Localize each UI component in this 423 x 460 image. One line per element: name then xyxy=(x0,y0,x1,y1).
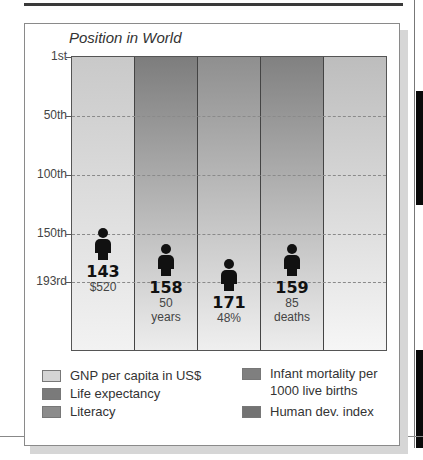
person-icon xyxy=(158,244,174,276)
page-edge-bar-top xyxy=(416,91,423,205)
gridline-100th xyxy=(72,175,386,176)
legend-label: Human dev. index xyxy=(270,404,374,420)
legend-label: GNP per capita in US$ xyxy=(70,368,201,384)
tick-label-50th: 50th xyxy=(44,108,67,122)
legend-swatch xyxy=(42,406,61,418)
rank-value: 143 xyxy=(72,264,134,280)
legend-swatch xyxy=(242,368,261,380)
legend-label: Infant mortality per 1000 live births xyxy=(270,366,378,399)
marker-life-expectancy: 158 50 years xyxy=(135,244,197,324)
value-unit: deaths xyxy=(261,310,323,324)
value-label: 48% xyxy=(198,311,260,325)
column-gnp xyxy=(72,57,135,350)
person-icon xyxy=(284,244,300,276)
legend-label-line2: 1000 live births xyxy=(270,383,378,399)
person-icon xyxy=(221,259,237,291)
legend-label: Literacy xyxy=(70,404,116,420)
top-rule xyxy=(24,3,403,6)
value-label: 85 xyxy=(261,296,323,310)
legend-swatch xyxy=(242,406,261,418)
marker-literacy: 171 48% xyxy=(198,259,260,325)
marker-infant-mortality: 159 85 deaths xyxy=(261,244,323,324)
value-unit: years xyxy=(135,310,197,324)
gridline-50th xyxy=(72,116,386,117)
legend-label-line1: Infant mortality per xyxy=(270,366,378,382)
column-human-dev-index xyxy=(324,57,387,350)
value-label: $520 xyxy=(72,280,134,294)
person-icon xyxy=(95,228,111,260)
plot-area: 143 $520 158 50 years 171 48% 159 85 dea… xyxy=(71,56,387,351)
page-edge-bar-bottom xyxy=(416,350,423,448)
rank-value: 171 xyxy=(198,295,260,311)
tick-label-100th: 100th xyxy=(37,167,67,181)
legend-swatch xyxy=(42,388,61,400)
legend-label: Life expectancy xyxy=(70,386,160,402)
value-label: 50 xyxy=(135,296,197,310)
tick-label-193rd: 193rd xyxy=(36,274,67,288)
rank-value: 159 xyxy=(261,280,323,296)
marker-gnp: 143 $520 xyxy=(72,228,134,294)
legend-swatch xyxy=(42,370,61,382)
tick-label-1st: 1st xyxy=(51,49,67,63)
tick-label-150th: 150th xyxy=(37,226,67,240)
chart-title: Position in World xyxy=(69,29,182,46)
rank-value: 158 xyxy=(135,280,197,296)
right-rule xyxy=(414,0,415,448)
